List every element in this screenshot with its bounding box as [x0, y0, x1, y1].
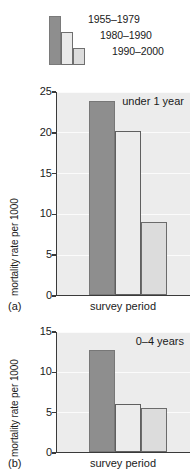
legend-label-1: 1955–1979 — [88, 14, 140, 25]
legend-swatch-1990-2000 — [73, 48, 85, 65]
panel-tag-a: (a) — [8, 300, 21, 312]
chart-panel-a: mortality rate per 1000 0510152025 under… — [0, 78, 194, 318]
bar-1955-1979 — [89, 350, 115, 452]
panel-title-a: under 1 year — [122, 95, 184, 107]
plot-area-b: 0–4 years — [56, 332, 190, 453]
plot-area-a: under 1 year — [56, 92, 190, 296]
bar-1955-1979 — [89, 101, 115, 295]
chart-panel-b: mortality rate per 1000 051015 0–4 years… — [0, 322, 194, 471]
legend-label-3: 1990–2000 — [112, 46, 164, 57]
panel-tag-b: (b) — [8, 457, 21, 469]
y-tick-label: 10 — [40, 366, 52, 377]
legend: 1955–1979 1980–1990 1990–2000 — [0, 0, 194, 70]
gridline — [57, 332, 190, 333]
y-tick-label: 15 — [40, 326, 52, 337]
legend-swatch-group — [49, 16, 85, 65]
legend-swatch-1955-1979 — [49, 16, 61, 65]
y-axis-ticks-b: 051015 — [24, 322, 52, 471]
y-axis-ticks-a: 0510152025 — [24, 78, 52, 318]
legend-swatch-1980-1990 — [61, 32, 73, 65]
legend-label-2: 1980–1990 — [100, 30, 152, 41]
gridline — [57, 372, 190, 373]
x-axis-label-b: survey period — [56, 457, 190, 469]
y-tick-label: 15 — [40, 168, 52, 179]
y-tick-label: 25 — [40, 86, 52, 97]
bar-1990-2000 — [141, 408, 167, 452]
x-axis-label-a: survey period — [56, 300, 190, 312]
panel-title-b: 0–4 years — [136, 335, 184, 347]
bar-1980-1990 — [115, 131, 141, 295]
y-tick-label: 20 — [40, 127, 52, 138]
bar-1980-1990 — [115, 404, 141, 452]
y-tick-label: 10 — [40, 208, 52, 219]
y-axis-label-b: mortality rate per 1000 — [9, 359, 20, 457]
gridline — [57, 92, 190, 93]
y-axis-label-a: mortality rate per 1000 — [9, 198, 20, 296]
bar-1990-2000 — [141, 222, 167, 295]
